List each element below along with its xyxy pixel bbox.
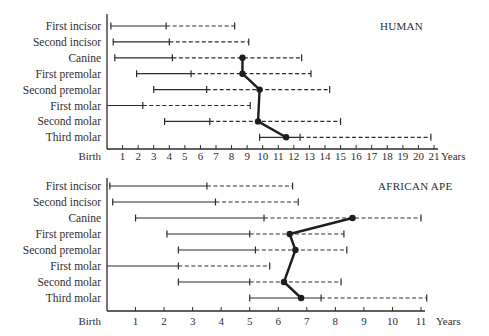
x-tick-label: 14 bbox=[320, 150, 332, 162]
row-label: Second incisor bbox=[33, 196, 101, 208]
x-tick-label: 11 bbox=[416, 315, 427, 327]
x-tick-label: Birth bbox=[78, 315, 101, 327]
x-tick-label: 3 bbox=[190, 315, 196, 327]
x-tick-label: 21 bbox=[429, 150, 440, 162]
row-label: First incisor bbox=[46, 20, 101, 32]
x-tick-label: 11 bbox=[273, 150, 284, 162]
african-ape-panel: AFRICAN APEBirth1234567891011YearsFirst … bbox=[23, 178, 461, 327]
row-label: Third molar bbox=[46, 131, 101, 143]
row-label: Second molar bbox=[37, 276, 101, 288]
row-label: Canine bbox=[68, 212, 101, 224]
x-tick-label: 2 bbox=[135, 150, 141, 162]
eruption-dot bbox=[292, 247, 298, 253]
row-label: Third molar bbox=[46, 292, 101, 304]
row-label: Second premolar bbox=[23, 244, 101, 257]
x-tick-label: Birth bbox=[78, 150, 101, 162]
x-tick-label: 8 bbox=[333, 315, 339, 327]
row-label: First molar bbox=[50, 260, 101, 272]
eruption-dot bbox=[256, 86, 262, 92]
x-tick-label: 9 bbox=[361, 315, 367, 327]
x-tick-label: 10 bbox=[387, 315, 399, 327]
x-tick-label: 20 bbox=[413, 150, 425, 162]
x-tick-label: 4 bbox=[218, 315, 224, 327]
x-tick-label: 13 bbox=[304, 150, 316, 162]
panel-title: AFRICAN APE bbox=[378, 180, 453, 192]
x-tick-label: 1 bbox=[133, 315, 139, 327]
eruption-dot bbox=[239, 71, 245, 77]
panel-title: HUMAN bbox=[380, 20, 423, 32]
row-label: First premolar bbox=[36, 228, 102, 241]
eruption-dot bbox=[239, 55, 245, 61]
row-label: Canine bbox=[68, 52, 101, 64]
x-tick-label: 2 bbox=[161, 315, 167, 327]
x-tick-label: 10 bbox=[257, 150, 269, 162]
x-tick-label: 6 bbox=[276, 315, 282, 327]
x-tick-label: 9 bbox=[244, 150, 250, 162]
x-tick-label: 18 bbox=[382, 150, 394, 162]
row-label: Second incisor bbox=[33, 36, 101, 48]
row-label: First molar bbox=[50, 100, 101, 112]
x-tick-label: 7 bbox=[213, 150, 219, 162]
x-tick-label: 16 bbox=[351, 150, 363, 162]
x-tick-label: 17 bbox=[366, 150, 378, 162]
x-tick-label: 15 bbox=[335, 150, 347, 162]
eruption-dot bbox=[281, 279, 287, 285]
eruption-dot bbox=[298, 295, 304, 301]
x-tick-label: 3 bbox=[151, 150, 157, 162]
human-panel: HUMANBirth123456789101112131415161718192… bbox=[23, 14, 466, 162]
x-tick-label: 5 bbox=[182, 150, 188, 162]
x-tick-label: 19 bbox=[397, 150, 409, 162]
eruption-dot bbox=[283, 134, 289, 140]
row-label: First premolar bbox=[36, 68, 102, 81]
tooth-development-chart: HUMANBirth123456789101112131415161718192… bbox=[0, 0, 489, 336]
eruption-line bbox=[242, 58, 286, 138]
eruption-dot bbox=[349, 215, 355, 221]
x-tick-label: 5 bbox=[247, 315, 253, 327]
x-tick-label: 4 bbox=[167, 150, 173, 162]
x-tick-label: 6 bbox=[198, 150, 204, 162]
x-tick-label: 7 bbox=[304, 315, 310, 327]
x-tick-label: 1 bbox=[120, 150, 126, 162]
x-tick-label: 12 bbox=[288, 150, 299, 162]
row-label: Second molar bbox=[37, 115, 101, 127]
x-axis-label: Years bbox=[436, 315, 461, 327]
eruption-line bbox=[284, 218, 353, 298]
x-tick-label: 8 bbox=[229, 150, 235, 162]
row-label: Second premolar bbox=[23, 84, 101, 97]
eruption-dot bbox=[286, 231, 292, 237]
eruption-dot bbox=[255, 118, 261, 124]
x-axis-label: Years bbox=[441, 150, 466, 162]
row-label: First incisor bbox=[46, 180, 101, 192]
